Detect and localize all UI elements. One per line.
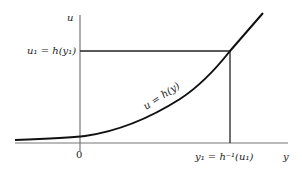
u1-label: u₁ = h(y₁) <box>27 45 76 56</box>
curve-h <box>15 13 263 140</box>
y-axis-label: y <box>282 151 289 162</box>
curve-label: u = h(y) <box>141 80 182 112</box>
inverse-function-diagram: u u₁ = h(y₁) 0 y₁ = h⁻¹(u₁) y u = h(y) <box>0 0 302 173</box>
u-axis-label: u <box>67 12 73 23</box>
origin-label: 0 <box>76 149 82 160</box>
y1-label: y₁ = h⁻¹(u₁) <box>194 151 253 162</box>
